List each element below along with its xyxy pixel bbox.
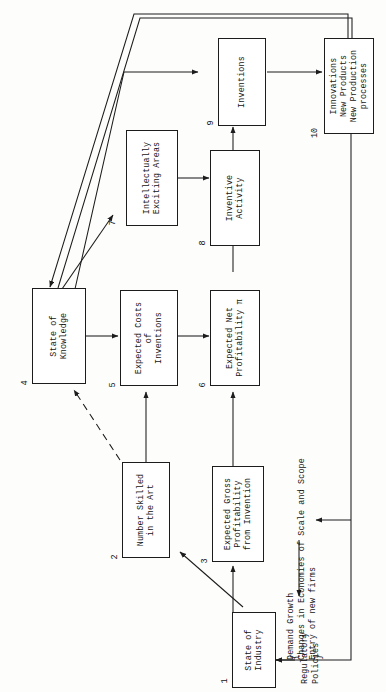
node-label-2: Number Skilled in the Art bbox=[136, 474, 156, 547]
node-number-6: 6 bbox=[198, 382, 208, 387]
edge-2-to-4-dashed bbox=[74, 390, 120, 460]
node-number-8: 8 bbox=[198, 240, 208, 245]
node-label-1: State of Industry bbox=[244, 629, 264, 670]
node-box-1[interactable]: State of Industry bbox=[232, 612, 276, 688]
node-number-4: 4 bbox=[20, 380, 30, 385]
brace-left-icon: { bbox=[290, 654, 300, 659]
node-number-9: 9 bbox=[206, 120, 216, 125]
node-box-9[interactable]: Inventions bbox=[218, 38, 266, 126]
edge-10-to-4-feedback-parallel bbox=[58, 18, 352, 288]
node-label-7: Intellectually Exciting Areas bbox=[142, 142, 162, 215]
node-label-6: Expected Net Profitability π bbox=[225, 299, 245, 377]
figure-canvas: State of Industry 1 Number Skilled in th… bbox=[0, 0, 386, 692]
node-label-3: Expected Gross Profitability from Invent… bbox=[223, 478, 253, 551]
node-number-7: 7 bbox=[108, 220, 118, 225]
node-box-10[interactable]: Innovations New Products New Production … bbox=[324, 38, 374, 134]
node-box-2[interactable]: Number Skilled in the Art bbox=[122, 462, 170, 558]
node-number-3: 3 bbox=[200, 558, 210, 563]
node-label-8: Inventive Activity bbox=[225, 175, 245, 222]
node-box-7[interactable]: Intellectually Exciting Areas bbox=[126, 130, 178, 226]
node-number-10: 10 bbox=[310, 128, 320, 138]
node-number-5: 5 bbox=[108, 382, 118, 387]
node-box-4[interactable]: State of Knowledge bbox=[32, 288, 86, 384]
edge-4-to-7 bbox=[62, 215, 113, 289]
edge-10-to-4-feedback bbox=[50, 14, 348, 287]
node-box-3[interactable]: Expected Gross Profitability from Invent… bbox=[212, 466, 264, 562]
node-label-4: State of Knowledge bbox=[49, 313, 69, 360]
node-box-5[interactable]: Expected Costs of Inventions bbox=[120, 290, 178, 386]
brace-right-icon: } bbox=[314, 654, 324, 659]
node-number-1: 1 bbox=[220, 678, 230, 683]
annotation-external-forces: Demand Growth Changes in Economies of Sc… bbox=[286, 458, 318, 660]
node-number-2: 2 bbox=[110, 554, 120, 559]
node-label-10: Innovations New Products New Production … bbox=[329, 50, 369, 123]
node-box-6[interactable]: Expected Net Profitability π bbox=[210, 290, 260, 386]
node-label-5: Expected Costs of Inventions bbox=[134, 302, 164, 375]
node-label-9: Inventions bbox=[237, 56, 247, 108]
node-box-8[interactable]: Inventive Activity bbox=[210, 150, 260, 246]
